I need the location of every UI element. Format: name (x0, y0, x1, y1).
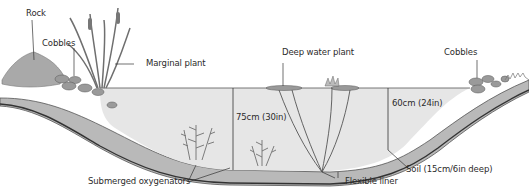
label-rock: Rock (26, 8, 46, 18)
label-submerged-oxygenators: Submerged oxygenators (88, 176, 190, 186)
label-deep-water-plant: Deep water plant (282, 47, 354, 57)
label-depth-shallow: 60cm (24in) (392, 98, 443, 108)
cobbles-right (469, 76, 509, 94)
label-soil: Soil (15cm/6in deep) (406, 164, 492, 174)
marginal-plant (68, 8, 130, 88)
pond-diagram (0, 0, 529, 189)
label-cobbles-right: Cobbles (444, 47, 477, 57)
label-depth-deep: 75cm (30in) (236, 112, 287, 122)
label-flexible-liner: Flexible liner (345, 176, 398, 186)
label-cobbles-left: Cobbles (42, 38, 75, 48)
rock (2, 52, 64, 87)
label-marginal-plant: Marginal plant (146, 58, 206, 68)
